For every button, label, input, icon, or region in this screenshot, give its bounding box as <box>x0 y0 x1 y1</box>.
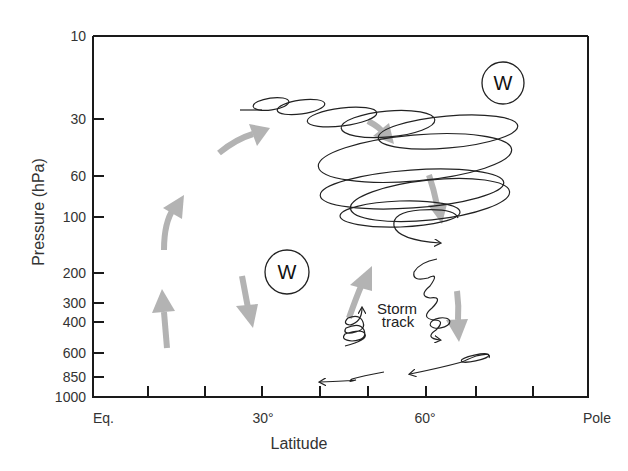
y-tick-label: 30 <box>70 111 86 127</box>
sinking-arrow-icon <box>236 276 258 328</box>
storm-sinking-arrow-icon <box>446 291 468 342</box>
circulation-diagram: 10 30 60 100 200 300 400 600 850 1000 Eq… <box>0 0 628 471</box>
y-axis-ticks <box>93 119 104 377</box>
x-tick-label-eq: Eq. <box>93 410 114 426</box>
x-tick-label-pole: Pole <box>583 410 611 426</box>
y-axis-title: Pressure (hPa) <box>30 158 47 266</box>
upper-wave-loops <box>240 96 519 243</box>
y-tick-label: 100 <box>63 209 87 225</box>
warm-region-lower: W <box>265 250 309 294</box>
descent-arrow-icon <box>428 175 447 224</box>
y-tick-label: 60 <box>70 168 86 184</box>
w-upper-label: W <box>494 72 513 94</box>
y-tick-label: 300 <box>63 295 87 311</box>
storm-rising-arrow-icon <box>349 266 372 318</box>
y-tick-label: 10 <box>70 28 86 44</box>
warm-region-upper: W <box>482 62 524 104</box>
circulation-arrows <box>152 121 468 348</box>
w-lower-label: W <box>278 261 297 283</box>
y-tick-labels: 10 30 60 100 200 300 400 600 850 1000 <box>55 28 86 405</box>
curved-up-arrow-icon <box>163 195 184 250</box>
y-tick-label: 850 <box>63 369 87 385</box>
y-tick-label: 200 <box>63 265 87 281</box>
y-tick-label: 600 <box>63 345 87 361</box>
x-axis-ticks <box>148 386 533 397</box>
x-tick-label-30: 30° <box>252 410 273 426</box>
storm-track-label-line2: track <box>382 313 415 330</box>
x-tick-label-60: 60° <box>414 410 435 426</box>
rising-arrow-icon <box>152 289 175 348</box>
x-axis-title: Latitude <box>271 435 328 452</box>
poleward-arrow-icon <box>219 124 270 153</box>
storm-track-loops: Storm track <box>344 259 451 346</box>
surface-easterlies <box>320 352 489 382</box>
x-tick-labels: Eq. 30° 60° Pole <box>93 410 611 426</box>
y-tick-label: 400 <box>63 314 87 330</box>
y-tick-label: 1000 <box>55 389 86 405</box>
